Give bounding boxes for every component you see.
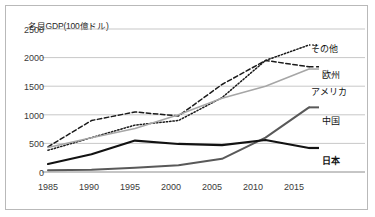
y-tick-2500: 2500 bbox=[14, 25, 44, 35]
x-tick-2000: 2000 bbox=[151, 182, 191, 192]
y-tick-500: 500 bbox=[14, 139, 44, 149]
x-tick-2010: 2010 bbox=[233, 182, 273, 192]
x-tick-1995: 1995 bbox=[110, 182, 150, 192]
x-tick-2015: 2015 bbox=[274, 182, 314, 192]
line-chart-canvas bbox=[6, 6, 369, 211]
y-tick-2000: 2000 bbox=[14, 53, 44, 63]
series-label-america: アメリカ bbox=[311, 85, 347, 98]
y-tick-1000: 1000 bbox=[14, 111, 44, 121]
x-tick-1985: 1985 bbox=[28, 182, 68, 192]
y-tick-0: 0 bbox=[14, 168, 44, 178]
series-label-china: 中国 bbox=[322, 114, 340, 127]
chart-frame: 名目GDP(100億ドル) 2500 2000 1500 1000 500 0 … bbox=[5, 5, 368, 210]
series-label-other: その他 bbox=[311, 42, 338, 55]
x-tick-2005: 2005 bbox=[192, 182, 232, 192]
series-label-japan: 日本 bbox=[322, 154, 340, 167]
series-lines bbox=[48, 45, 319, 170]
x-tick-1990: 1990 bbox=[69, 182, 109, 192]
series-label-europe: 欧州 bbox=[322, 68, 340, 81]
y-tick-1500: 1500 bbox=[14, 82, 44, 92]
